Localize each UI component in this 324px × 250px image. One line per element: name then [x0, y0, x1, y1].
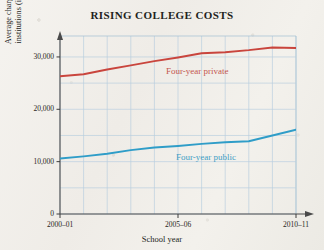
y-tick-label: 20,000 [8, 104, 54, 113]
x-axis-ticks [60, 214, 296, 218]
y-axis-title: Average charges at four-year institution… [4, 0, 26, 72]
x-axis-title: School year [0, 234, 324, 244]
x-tick-label: 2005–06 [150, 220, 206, 229]
chart-figure: RISING COLLEGE COSTS 010 [0, 0, 324, 250]
series-label-four-year-private: Four-year private [166, 66, 229, 76]
y-axis-title-line1: Average charges at four-year [4, 0, 14, 72]
y-axis-title-line2: institutions (in 2010 dollars) [14, 0, 24, 72]
series-label-four-year-public: Four-year public [176, 152, 236, 162]
vertical-gridlines [60, 36, 296, 214]
x-tick-label: 2000–01 [32, 220, 88, 229]
x-tick-label: 2010–11 [268, 220, 324, 229]
y-tick-label: 0 [8, 209, 54, 218]
y-tick-label: 10,000 [8, 157, 54, 166]
axis-lines [57, 31, 314, 217]
